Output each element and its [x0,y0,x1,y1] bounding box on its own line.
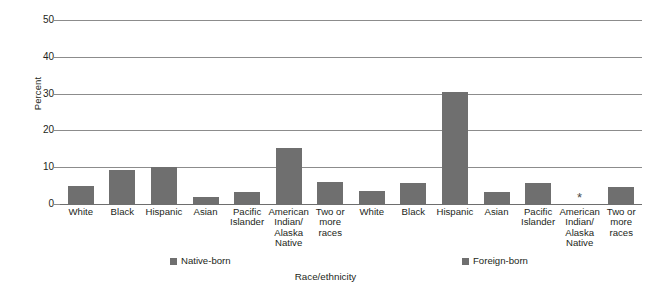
bar [608,187,634,204]
bar [442,92,468,204]
bar [151,167,177,204]
legend-label-native-born: Native-born [181,255,231,266]
bar [484,192,510,204]
plot-area: * [60,20,642,204]
legend-swatch-icon [170,258,177,265]
legend-item-foreign-born: Foreign-born [462,255,528,266]
suppressed-value-asterisk: * [567,194,593,202]
y-tick-label-50: 50 [28,15,54,25]
y-axis-tick-50 [53,20,60,21]
gridline-40 [60,57,642,58]
x-axis-title: Race/ethnicity [0,271,651,282]
y-axis-tick-0 [53,204,60,205]
x-category-label-line: races [595,228,647,238]
gridline-30 [60,94,642,95]
gridline-0 [60,204,642,205]
y-tick-label-30: 30 [28,89,54,99]
x-category-label-line: Native [263,238,315,248]
bar [359,191,385,204]
x-category-label-line: races [304,228,356,238]
y-axis-tick-40 [53,57,60,58]
bar [400,183,426,204]
bar [525,183,551,204]
x-category-label-line: Native [554,238,606,248]
y-axis-tick-10 [53,167,60,168]
y-tick-label-20: 20 [28,125,54,135]
bar [109,170,135,204]
bar [317,182,343,204]
y-tick-label-10: 10 [28,162,54,172]
gridline-20 [60,130,642,131]
bar [193,197,219,204]
y-tick-label-0: 0 [28,199,54,209]
bar [276,148,302,204]
legend-swatch-icon [462,258,469,265]
x-category-label: Two ormoreraces [595,207,647,238]
legend-label-foreign-born: Foreign-born [473,255,528,266]
y-axis-tick-20 [53,130,60,131]
y-axis-tick-30 [53,94,60,95]
bar [234,192,260,205]
y-tick-label-40: 40 [28,52,54,62]
gridline-10 [60,167,642,168]
legend-item-native-born: Native-born [170,255,231,266]
bar-chart: Percent 01020304050 * WhiteBlackHispanic… [0,0,651,293]
gridline-50 [60,20,642,21]
bar [68,186,94,204]
